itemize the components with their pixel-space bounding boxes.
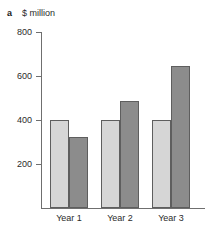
y-tick-label-200: 200 [17, 160, 32, 169]
y-tick-mark-800 [36, 32, 41, 33]
y-tick-label-400: 400 [17, 116, 32, 125]
panel-letter-label: a [7, 8, 12, 19]
bar-year-3-light [152, 120, 171, 208]
x-axis-line [41, 208, 205, 209]
y-axis-line [41, 32, 42, 209]
bar-year-2-light [101, 120, 120, 208]
x-category-label-year-3: Year 3 [140, 213, 202, 224]
y-tick-label-600: 600 [17, 72, 32, 81]
bar-year-3-dark [171, 66, 190, 208]
figure-panel-a: a $ million 800 600 400 200 Year 1 Year … [0, 0, 210, 235]
bar-year-1-light [50, 120, 69, 208]
y-axis-title: $ million [22, 8, 55, 19]
y-tick-label-800: 800 [17, 28, 32, 37]
y-tick-mark-400 [36, 120, 41, 121]
y-tick-mark-600 [36, 76, 41, 77]
bar-year-2-dark [120, 101, 139, 208]
y-tick-mark-200 [36, 164, 41, 165]
bar-year-1-dark [69, 137, 88, 208]
